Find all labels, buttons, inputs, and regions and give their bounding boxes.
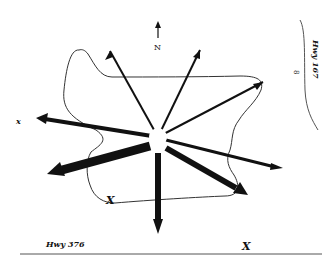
wind-rose-diagram: N x X Hwy 167 8 Hwy 376 X bbox=[0, 0, 336, 267]
north-arrow-icon: N bbox=[154, 21, 161, 52]
inside-marker: X bbox=[105, 194, 115, 207]
highway-167-marker: 8 bbox=[292, 70, 300, 74]
highway-376-label: Hwy 376 bbox=[45, 239, 85, 249]
arrow-nnw bbox=[110, 51, 158, 137]
highway-167-label: Hwy 167 bbox=[311, 39, 321, 79]
arrow-wsw bbox=[62, 146, 150, 170]
north-label: N bbox=[154, 43, 161, 52]
arrow-w bbox=[45, 119, 158, 137]
arrow-nne bbox=[158, 50, 200, 137]
arrow-ese bbox=[166, 140, 275, 167]
bottom-marker: X bbox=[241, 240, 251, 253]
hub bbox=[149, 128, 167, 146]
left-marker: x bbox=[15, 116, 21, 126]
